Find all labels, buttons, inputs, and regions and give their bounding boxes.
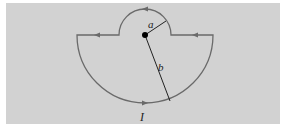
arrow-top-arc-icon <box>142 7 148 12</box>
current-loop-wire <box>77 9 213 103</box>
current-loop-diagram: a b I <box>0 0 284 130</box>
center-dot <box>142 32 148 38</box>
arrow-right-segment-icon <box>192 33 198 38</box>
arrow-left-segment-icon <box>94 33 100 38</box>
arrow-bottom-arc-icon <box>142 101 148 106</box>
label-current-I: I <box>139 110 145 124</box>
label-b: b <box>158 61 164 73</box>
label-a: a <box>148 18 154 30</box>
